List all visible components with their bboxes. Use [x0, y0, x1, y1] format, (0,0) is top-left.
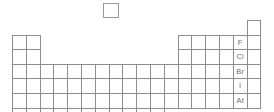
- element-cell-empty: [205, 78, 220, 94]
- element-cell-empty: [191, 35, 206, 51]
- element-cell-chlorine: Cl: [233, 49, 248, 65]
- element-cell-empty: [219, 64, 234, 80]
- element-cell-empty: [136, 93, 151, 109]
- element-cell-empty: [150, 78, 165, 94]
- element-cell-empty: [26, 93, 41, 109]
- element-cell-empty: [67, 64, 82, 80]
- element-cell-empty: [122, 64, 137, 80]
- element-cell-empty: [109, 78, 124, 94]
- element-cell-empty: [205, 49, 220, 65]
- element-cell-empty: [219, 93, 234, 109]
- element-cell-empty: [191, 64, 206, 80]
- element-cell-empty: [67, 108, 82, 112]
- element-symbol: Cl: [237, 53, 244, 61]
- element-cell-empty: [95, 64, 110, 80]
- element-cell-empty: [164, 64, 179, 80]
- element-cell-empty: [53, 108, 68, 112]
- element-cell-empty: [191, 78, 206, 94]
- element-cell-empty: [67, 93, 82, 109]
- element-cell-empty: [26, 49, 41, 65]
- element-cell-empty: [109, 64, 124, 80]
- hydrogen-cell: [103, 3, 119, 18]
- element-cell-empty: [205, 93, 220, 109]
- element-cell-empty: [12, 49, 27, 65]
- element-cell-empty: [247, 78, 262, 94]
- element-cell-empty: [12, 35, 27, 51]
- element-symbol: I: [239, 82, 241, 90]
- element-cell-empty: [247, 35, 262, 51]
- element-cell-empty: [95, 93, 110, 109]
- element-cell-empty: [81, 78, 96, 94]
- element-cell-empty: [12, 64, 27, 80]
- element-cell-empty: [12, 93, 27, 109]
- element-cell-empty: [40, 108, 55, 112]
- element-cell-empty: [164, 78, 179, 94]
- element-cell-empty: [247, 93, 262, 109]
- element-cell-empty: [26, 78, 41, 94]
- element-cell-iodine: I: [233, 78, 248, 94]
- element-symbol: At: [237, 97, 244, 105]
- element-cell-empty: [12, 108, 27, 112]
- element-cell-empty: [247, 20, 262, 36]
- element-cell-empty: [219, 78, 234, 94]
- element-cell-empty: [40, 93, 55, 109]
- element-cell-empty: [53, 78, 68, 94]
- element-cell-empty: [40, 64, 55, 80]
- element-cell-empty: [178, 78, 193, 94]
- element-cell-empty: [26, 108, 41, 112]
- element-cell-empty: [81, 93, 96, 109]
- element-cell-empty: [12, 78, 27, 94]
- element-cell-empty: [178, 49, 193, 65]
- element-cell-bromine: Br: [233, 64, 248, 80]
- element-cell-empty: [122, 93, 137, 109]
- element-cell-empty: [95, 108, 110, 112]
- element-cell-empty: [26, 64, 41, 80]
- element-cell-empty: [53, 64, 68, 80]
- element-cell-empty: [191, 93, 206, 109]
- element-cell-empty: [219, 35, 234, 51]
- element-cell-empty: [136, 108, 151, 112]
- element-cell-empty: [164, 93, 179, 109]
- element-cell-empty: [136, 78, 151, 94]
- element-cell-empty: [205, 35, 220, 51]
- element-cell-empty: [95, 78, 110, 94]
- element-cell-empty: [205, 64, 220, 80]
- element-cell-empty: [219, 49, 234, 65]
- element-cell-empty: [109, 108, 124, 112]
- element-cell-astatine: At: [233, 93, 248, 109]
- element-cell-empty: [247, 64, 262, 80]
- element-cell-empty: [53, 93, 68, 109]
- element-cell-empty: [67, 78, 82, 94]
- element-cell-empty: [109, 93, 124, 109]
- element-cell-empty: [150, 108, 165, 112]
- periodic-table-diagram: FClBrIAt: [0, 0, 274, 112]
- element-cell-empty: [178, 64, 193, 80]
- element-symbol: F: [238, 39, 243, 47]
- element-cell-empty: [122, 108, 137, 112]
- element-cell-empty: [136, 64, 151, 80]
- element-cell-empty: [178, 93, 193, 109]
- element-cell-fluorine: F: [233, 35, 248, 51]
- element-cell-empty: [26, 35, 41, 51]
- element-cell-empty: [150, 93, 165, 109]
- element-cell-empty: [40, 78, 55, 94]
- element-cell-empty: [150, 64, 165, 80]
- element-symbol: Br: [236, 68, 244, 76]
- element-cell-empty: [247, 49, 262, 65]
- element-cell-empty: [81, 64, 96, 80]
- element-cell-empty: [81, 108, 96, 112]
- element-cell-empty: [178, 35, 193, 51]
- element-cell-empty: [191, 49, 206, 65]
- element-cell-empty: [122, 78, 137, 94]
